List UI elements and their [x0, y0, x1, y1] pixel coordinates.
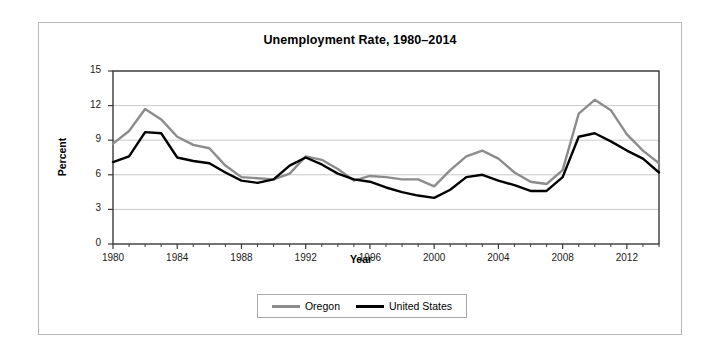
legend-item-oregon: Oregon: [272, 300, 340, 312]
series-line-united-states: [113, 132, 659, 198]
x-axis-tick-label: 2012: [605, 252, 649, 263]
legend-swatch-oregon: [272, 305, 300, 308]
x-axis-tick-label: 1980: [91, 252, 135, 263]
x-axis-tick-label: 1988: [219, 252, 263, 263]
y-axis-tick-label: 15: [75, 64, 101, 75]
plot-area: Percent Year 03691215 198019841988199219…: [39, 23, 683, 336]
y-axis-tick-label: 3: [75, 202, 101, 213]
plot-border: [113, 71, 659, 244]
y-axis-title: Percent: [56, 117, 68, 197]
legend-item-united-states: United States: [356, 300, 452, 312]
legend-swatch-united-states: [356, 305, 384, 308]
x-axis-tick-label: 1996: [348, 252, 392, 263]
x-axis-tick-label: 1992: [284, 252, 328, 263]
chart-canvas: [39, 23, 683, 336]
y-axis-tick-label: 12: [75, 99, 101, 110]
legend-label-oregon: Oregon: [305, 300, 340, 312]
x-axis-tick-label: 2008: [541, 252, 585, 263]
y-axis-tick-label: 9: [75, 133, 101, 144]
chart-legend: Oregon United States: [257, 294, 467, 318]
y-axis-tick-label: 0: [75, 237, 101, 248]
x-axis-tick-label: 2000: [412, 252, 456, 263]
legend-label-united-states: United States: [389, 300, 452, 312]
x-axis-tick-label: 1984: [155, 252, 199, 263]
x-axis-tick-label: 2004: [476, 252, 520, 263]
y-axis-tick-label: 6: [75, 168, 101, 179]
figure-frame: Unemployment Rate, 1980–2014 Percent Yea…: [38, 22, 682, 335]
